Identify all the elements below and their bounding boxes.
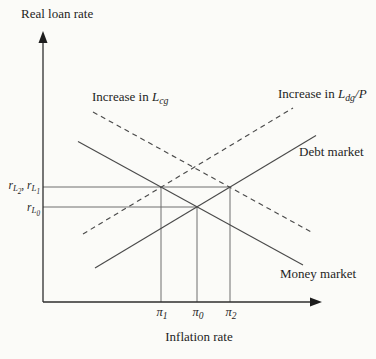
loan-rate-inflation-diagram: Real loan rate Inflation rate Increase i…	[0, 0, 376, 359]
money-market-label: Money market	[280, 267, 356, 282]
ldg-subscript: dg	[345, 92, 355, 103]
increase-ldg-label: Increase in Ldg/P	[278, 87, 367, 102]
ldg-suffix: /P	[355, 86, 367, 101]
r-l1-sub: L1	[32, 183, 40, 193]
x-tick-pi2: π2	[225, 305, 236, 319]
diagram-canvas	[0, 0, 376, 359]
r-l0-sub: L0	[32, 205, 40, 215]
x-axis-arrow	[310, 298, 322, 307]
x-tick-pi1: π1	[156, 305, 167, 319]
debt-market-shifted-curve	[83, 108, 293, 234]
increase-lcg-text: Increase in	[92, 89, 152, 104]
increase-lcg-label: Increase in Lcg	[92, 90, 168, 105]
y-axis-title: Real loan rate	[21, 7, 93, 22]
money-market-curve	[78, 142, 303, 266]
x-tick-pi0: π0	[192, 305, 203, 319]
lcg-subscript: cg	[159, 95, 168, 106]
y-axis-arrow	[39, 31, 48, 43]
x-axis-title: Inflation rate	[165, 330, 233, 345]
y-tick-r-l2-r-l1: rL2, rL1	[8, 179, 40, 192]
debt-market-label: Debt market	[299, 145, 364, 160]
increase-ldg-text: Increase in	[278, 86, 338, 101]
debt-market-curve	[95, 136, 316, 269]
money-market-shifted-curve	[93, 112, 313, 233]
y-tick-r-l0: rL0	[27, 201, 40, 214]
